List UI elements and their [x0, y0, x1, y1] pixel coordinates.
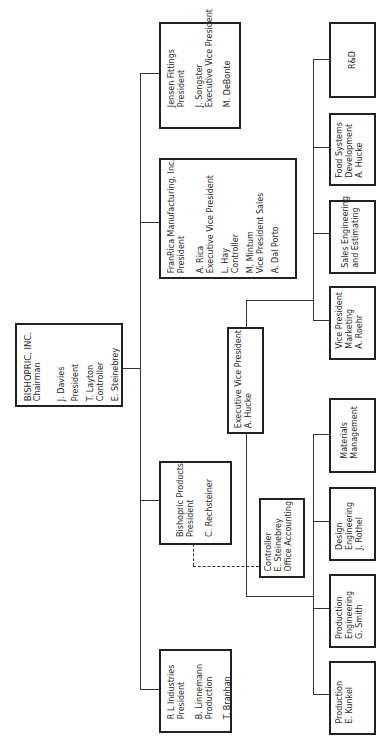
- evp-lower-bus: [246, 596, 313, 597]
- stub-rd: [313, 59, 329, 60]
- department-label: Engineering: [345, 502, 355, 550]
- role-label: President: [177, 9, 187, 107]
- box-bishopric-products: Bishopric Products President C. Rechstei…: [159, 461, 232, 545]
- person-name: J. Songster: [195, 9, 205, 107]
- person-name: A. Roehr: [355, 292, 365, 349]
- stub-prod: [313, 694, 329, 695]
- box-design-engineering: Design Engineering J. Rothel: [329, 487, 376, 561]
- department-label: Production: [335, 681, 345, 724]
- department-label: Development: [345, 122, 355, 178]
- role-label: Production: [205, 664, 215, 719]
- evp-up-line: [246, 300, 247, 327]
- person-name: E. Steinebrey: [111, 332, 121, 401]
- department-label: Design: [335, 502, 345, 550]
- department-label: Production: [335, 591, 345, 639]
- box-vp-marketing: Vice President Marketing A. Roehr: [329, 286, 376, 360]
- stub-mm: [313, 434, 329, 435]
- person-name: G. Smith: [355, 591, 365, 639]
- trunk-upper-right: [313, 59, 314, 321]
- person-name: E. Steinebrey: [274, 501, 284, 572]
- role-label: Vice President: [335, 292, 345, 349]
- box-franrica: FranRica Manufacturing, Inc. President A…: [159, 158, 297, 279]
- stub-se: [313, 233, 329, 234]
- person-name: T. Layton: [86, 332, 96, 401]
- stub-de: [313, 521, 329, 522]
- person-name: A. Hucke: [355, 122, 365, 178]
- stub-fsd: [313, 147, 329, 148]
- box-rl-industries: R L Industries President B. Linnemann Pr…: [159, 649, 232, 733]
- person-name: E. Kunkel: [345, 681, 355, 724]
- trunk-lower-right: [313, 434, 314, 694]
- box-controller: Controller E. Steinebrey Office Accounti…: [259, 498, 305, 578]
- box-production-engineering: Production Engineering G. Smith: [329, 574, 376, 648]
- role-label: Executive Vice President: [206, 159, 216, 273]
- department-label: Office Accounting: [284, 501, 294, 572]
- person-name: A. Hucke: [244, 330, 254, 428]
- stub-pe: [313, 608, 329, 609]
- box-executive-vice-president: Executive Vice President A. Hucke: [227, 327, 264, 434]
- role-label: Executive Vice President: [234, 330, 244, 428]
- role-label: Executive Vice President: [205, 9, 215, 107]
- stub-vpm: [313, 320, 329, 321]
- person-name: M. DeBonte: [223, 9, 233, 107]
- trunk-main: [140, 73, 141, 690]
- connector-franrica: [140, 222, 159, 223]
- role-label: Controller: [264, 501, 274, 572]
- role-label: Chairman: [33, 332, 45, 401]
- company-title: BISHOPRIC, INC.: [23, 332, 33, 401]
- evp-down-line: [246, 433, 247, 596]
- role-label: Marketing: [345, 292, 355, 349]
- role-label: President: [71, 332, 81, 401]
- department-label: and Estimating: [351, 196, 361, 268]
- person-name: B. Linnemann: [195, 664, 205, 719]
- person-name: C. Rechsteiner: [205, 463, 215, 537]
- dashed-link-horizontal: [193, 566, 259, 567]
- company-title: R L Industries: [167, 664, 177, 719]
- role-label: Controller: [231, 159, 241, 273]
- box-rd: R&D: [329, 22, 376, 98]
- department-label: Food Systems: [335, 122, 345, 178]
- box-bishopric-inc: BISHOPRIC, INC. Chairman J. Davies Presi…: [15, 323, 123, 407]
- box-sales-engineering: Sales Engineering and Estimating: [329, 200, 376, 274]
- person-name: J. Davies: [57, 332, 71, 401]
- box-materials-management: Materials Management: [329, 398, 376, 473]
- company-title: Jensen Fittings: [167, 9, 177, 107]
- role-label: Vice President Sales: [256, 159, 266, 273]
- box-jensen-fittings: Jensen Fittings President J. Songster Ex…: [159, 22, 241, 129]
- company-title: Bishopric Products: [176, 463, 186, 537]
- role-label: President: [177, 159, 187, 273]
- connector-root: [123, 368, 140, 369]
- dashed-link-vertical: [193, 544, 194, 566]
- box-food-systems-development: Food Systems Development A. Hucke: [329, 113, 376, 186]
- department-label: Engineering: [345, 591, 355, 639]
- role-label: President: [186, 463, 196, 537]
- role-label: Controller: [96, 332, 106, 401]
- person-name: L. Hay: [221, 159, 231, 273]
- person-name: A. Dal Porto: [271, 159, 281, 273]
- person-name: T. Branhan: [223, 664, 233, 719]
- connector-bishopric-products: [140, 500, 159, 501]
- connector-rl: [140, 689, 159, 690]
- department-label: Management: [350, 406, 360, 459]
- person-name: J. Rothel: [355, 502, 365, 550]
- department-label: Materials: [340, 406, 350, 459]
- evp-upper-bus: [246, 300, 313, 301]
- person-name: M. Mintum: [246, 159, 256, 273]
- box-production: Production E. Kunkel: [329, 661, 376, 735]
- company-title: FranRica Manufacturing, Inc.: [167, 159, 177, 273]
- department-label: Sales Engineering: [341, 196, 351, 268]
- department-label: R&D: [348, 51, 358, 69]
- role-label: President: [177, 664, 187, 719]
- person-name: A. Rica: [196, 159, 206, 273]
- connector-jensen: [140, 73, 159, 74]
